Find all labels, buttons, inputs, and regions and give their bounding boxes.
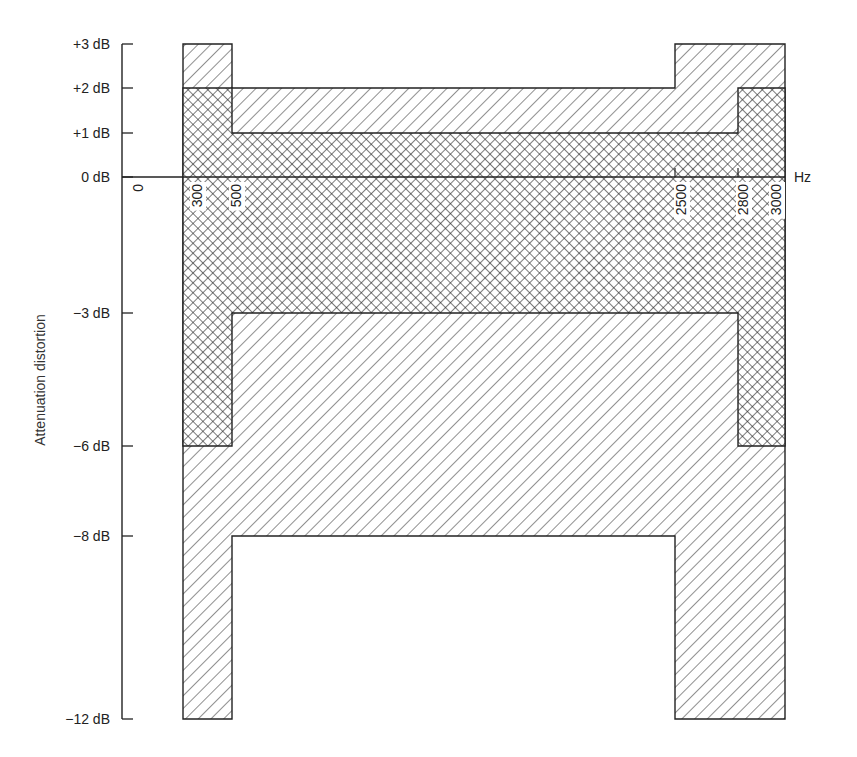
x-tick-label-2500: 2500 <box>673 182 690 219</box>
svg-text:500: 500 <box>228 184 244 208</box>
y-axis-title: Attenuation distortion <box>32 314 48 446</box>
x-tick-label-0: 0 <box>130 184 146 192</box>
y-tick-label: −3 dB <box>73 305 110 321</box>
x-tick-label-300: 300 <box>189 182 206 211</box>
y-tick-label: +2 dB <box>73 80 110 96</box>
y-axis: +3 dB+2 dB+1 dB0 dB−3 dB−6 dB−8 dB−12 dB <box>65 36 133 727</box>
svg-text:300: 300 <box>189 184 205 208</box>
x-tick-label-500: 500 <box>228 182 245 211</box>
svg-text:3000: 3000 <box>768 184 784 215</box>
x-axis-unit-label: Hz <box>794 169 811 185</box>
y-tick-label: 0 dB <box>81 169 110 185</box>
x-tick-label-3000: 3000 <box>768 182 785 219</box>
y-tick-label: −8 dB <box>73 528 110 544</box>
y-tick-label: −12 dB <box>65 711 110 727</box>
y-tick-label: −6 dB <box>73 438 110 454</box>
attenuation-distortion-chart: 0300500250028003000 +3 dB+2 dB+1 dB0 dB−… <box>0 0 857 757</box>
y-tick-label: +1 dB <box>73 125 110 141</box>
x-tick-label-2800: 2800 <box>735 182 752 219</box>
svg-text:2800: 2800 <box>735 184 751 215</box>
svg-text:0: 0 <box>130 184 146 192</box>
svg-text:2500: 2500 <box>673 184 689 215</box>
y-tick-label: +3 dB <box>73 36 110 52</box>
